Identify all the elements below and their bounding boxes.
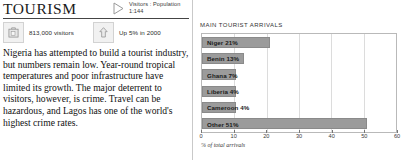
chart-bars: Niger 21%Benin 13%Ghana 7%Liberia 4%Came… xyxy=(202,34,396,132)
chart-bar-label: Benin 13% xyxy=(207,55,239,62)
chart-bar-niger: Niger 21% xyxy=(202,37,270,48)
chart-bar-row: Benin 13% xyxy=(202,50,396,66)
chart-bar-benin: Benin 13% xyxy=(202,53,244,64)
chart-bar-row: Ghana 7% xyxy=(202,67,396,83)
chart-bar-other: Other 51% xyxy=(202,118,367,129)
chart-plot-area: Niger 21%Benin 13%Ghana 7%Liberia 4%Came… xyxy=(201,33,397,133)
stat-change-label: Up 5% in 2000 xyxy=(119,29,161,36)
stat-visitors-label: 813,000 visitors xyxy=(29,29,74,36)
chart-bar-row: Cameroon 4% xyxy=(202,99,396,115)
chart-bar-ghana: Ghana 7% xyxy=(202,69,236,80)
x-tick-20: 20 xyxy=(263,133,269,139)
x-tick-10: 10 xyxy=(231,133,237,139)
stat-visitors: 813,000 visitors xyxy=(3,22,74,43)
title-divider-rule xyxy=(3,18,189,19)
chart-title: MAIN TOURIST ARRIVALS xyxy=(200,22,283,28)
x-tick-0: 0 xyxy=(199,133,202,139)
body-paragraph: Nigeria has attempted to build a tourist… xyxy=(3,47,189,128)
chart-x-axis-label: % of total arrivals xyxy=(201,142,245,148)
up-arrow-icon xyxy=(93,22,114,43)
stat-change: Up 5% in 2000 xyxy=(93,22,161,43)
triangle-right-icon xyxy=(113,2,124,15)
column-divider xyxy=(192,0,193,160)
text-column: TOURISM Visitors : Population 1:144 8 xyxy=(0,0,192,160)
chart-bar-label: Liberia 4% xyxy=(207,88,239,95)
chart-bar-liberia: Liberia 4% xyxy=(202,86,236,97)
chart-plot-wrapper: Niger 21%Benin 13%Ghana 7%Liberia 4%Came… xyxy=(201,33,397,133)
chart-column: MAIN TOURIST ARRIVALS Niger 21%Benin 13%… xyxy=(197,0,402,160)
chart-bar-cameroon: Cameroon 4% xyxy=(202,102,236,113)
page-title: TOURISM xyxy=(3,1,77,17)
chart-bar-label: Cameroon 4% xyxy=(207,104,249,111)
tourism-page: TOURISM Visitors : Population 1:144 8 xyxy=(0,0,402,160)
x-tick-40: 40 xyxy=(329,133,335,139)
suitcase-icon xyxy=(3,22,24,43)
chart-bar-label: Other 51% xyxy=(207,120,239,127)
section-header: TOURISM Visitors : Population 1:144 xyxy=(3,1,189,18)
x-tick-60: 60 xyxy=(394,133,400,139)
ratio-text: Visitors : Population 1:144 xyxy=(129,1,180,14)
x-tick-30: 30 xyxy=(296,133,302,139)
chart-bar-row: Niger 21% xyxy=(202,34,396,50)
visitor-population-ratio: Visitors : Population 1:144 xyxy=(113,1,180,15)
chart-bar-label: Niger 21% xyxy=(207,39,238,46)
stats-row: 813,000 visitors Up 5% in 2000 xyxy=(3,22,189,45)
chart-bar-row: Liberia 4% xyxy=(202,83,396,99)
chart-bar-label: Ghana 7% xyxy=(207,71,238,78)
x-tick-50: 50 xyxy=(361,133,367,139)
